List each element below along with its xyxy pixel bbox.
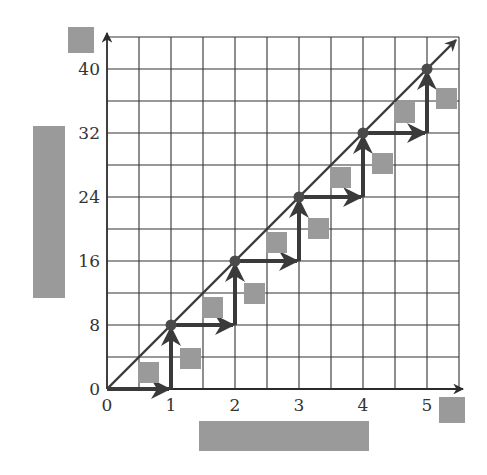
redacted-step-label xyxy=(436,88,457,109)
y-tick-label: 32 xyxy=(78,123,100,143)
data-point xyxy=(358,128,369,139)
x-tick-label: 5 xyxy=(422,395,433,415)
y-tick-label: 0 xyxy=(89,379,100,399)
data-point xyxy=(294,192,305,203)
x-tick-label: 2 xyxy=(230,395,241,415)
redacted-step-label xyxy=(330,167,351,188)
y-tick-label: 40 xyxy=(78,59,100,79)
staircase-line-chart: 0123450816243240 xyxy=(0,0,487,475)
redacted-step-label xyxy=(138,362,159,383)
y-tick-label: 16 xyxy=(78,251,100,271)
redacted-step-label xyxy=(266,232,287,253)
redacted-x-axis-unit-label xyxy=(439,397,465,423)
redacted-y-axis-unit-label xyxy=(68,27,94,53)
y-tick-label: 24 xyxy=(78,187,100,207)
redacted-step-label xyxy=(202,297,223,318)
data-point xyxy=(422,64,433,75)
trend-line xyxy=(107,40,456,389)
y-tick-label: 8 xyxy=(89,315,100,335)
redacted-step-label xyxy=(308,218,329,239)
redacted-x-axis-title xyxy=(199,421,369,451)
data-line xyxy=(107,40,456,389)
x-tick-label: 3 xyxy=(294,395,305,415)
tick-labels: 0123450816243240 xyxy=(78,59,432,415)
redacted-step-label xyxy=(180,348,201,369)
x-tick-label: 0 xyxy=(102,395,113,415)
redacted-step-label xyxy=(244,283,265,304)
redacted-step-label xyxy=(394,102,415,123)
data-point xyxy=(166,320,177,331)
x-tick-label: 4 xyxy=(358,395,369,415)
redacted-step-label xyxy=(372,153,393,174)
data-point xyxy=(230,256,241,267)
x-tick-label: 1 xyxy=(166,395,177,415)
redacted-y-axis-title xyxy=(33,126,65,298)
